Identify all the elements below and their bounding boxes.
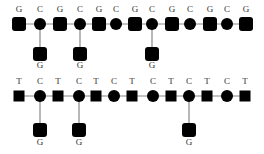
node-label: G: [169, 4, 176, 14]
chain-node-c: [183, 90, 195, 102]
chain-node-c: [147, 90, 159, 102]
chain-node-t: [166, 91, 177, 102]
node-label: G: [207, 4, 214, 14]
bottom-tc-chain: GGGTCTCTCTCTCTCT: [14, 76, 251, 147]
node-label: G: [37, 60, 44, 70]
chain-node-g: [128, 17, 142, 31]
chain-node-g: [203, 17, 217, 31]
chain-node-t: [53, 91, 64, 102]
node-label: G: [186, 137, 193, 147]
chain-node-c: [221, 18, 233, 30]
chain-node-t: [14, 91, 25, 102]
node-label: G: [149, 60, 156, 70]
chain-node-c: [108, 90, 120, 102]
node-label: C: [149, 4, 155, 14]
branch-node-g: [73, 47, 87, 61]
node-label: G: [132, 4, 139, 14]
chain-node-t: [202, 91, 213, 102]
node-label: T: [242, 76, 248, 86]
branch-node-g: [33, 123, 47, 137]
node-label: T: [168, 76, 174, 86]
node-label: G: [77, 60, 84, 70]
node-label: G: [37, 137, 44, 147]
chain-node-g: [165, 17, 179, 31]
chain-node-g: [53, 17, 67, 31]
node-label: C: [76, 76, 82, 86]
node-label: T: [55, 76, 61, 86]
node-label: C: [37, 4, 43, 14]
node-label: C: [113, 4, 119, 14]
node-label: C: [111, 76, 117, 86]
chain-node-c: [221, 90, 233, 102]
branch-node-g: [33, 47, 47, 61]
chain-node-t: [127, 91, 138, 102]
node-label: C: [37, 76, 43, 86]
node-label: C: [224, 4, 230, 14]
chain-diagram: GGGGCGCGCGCGCGCG GGGTCTCTCTCTCTCT: [0, 0, 264, 154]
node-label: G: [57, 4, 64, 14]
chain-node-c: [184, 18, 196, 30]
chain-node-c: [110, 18, 122, 30]
chain-node-t: [240, 91, 251, 102]
node-label: G: [243, 4, 250, 14]
node-label: T: [16, 76, 22, 86]
branch-node-g: [72, 123, 86, 137]
chain-node-g: [239, 17, 253, 31]
top-gc-chain: GGGGCGCGCGCGCGCG: [12, 4, 253, 70]
chain-node-c: [73, 90, 85, 102]
node-label: T: [129, 76, 135, 86]
chain-node-c: [146, 18, 158, 30]
node-label: T: [204, 76, 210, 86]
branch-node-g: [182, 123, 196, 137]
chain-node-c: [34, 18, 46, 30]
branch-node-g: [145, 47, 159, 61]
node-label: G: [16, 4, 23, 14]
chain-node-t: [91, 91, 102, 102]
chain-node-g: [12, 17, 26, 31]
chain-node-c: [74, 18, 86, 30]
node-label: T: [93, 76, 99, 86]
node-label: G: [76, 137, 83, 147]
node-label: C: [150, 76, 156, 86]
chain-node-c: [34, 90, 46, 102]
node-label: C: [77, 4, 83, 14]
node-label: C: [224, 76, 230, 86]
chain-node-g: [92, 17, 106, 31]
node-label: C: [187, 4, 193, 14]
node-label: G: [96, 4, 103, 14]
node-label: C: [186, 76, 192, 86]
